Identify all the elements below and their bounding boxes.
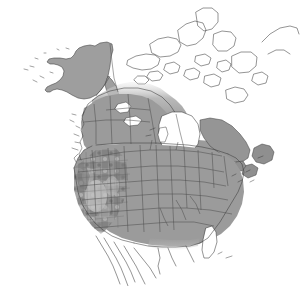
map-canvas	[0, 0, 301, 286]
distribution-map: North America distribution map	[0, 0, 301, 286]
